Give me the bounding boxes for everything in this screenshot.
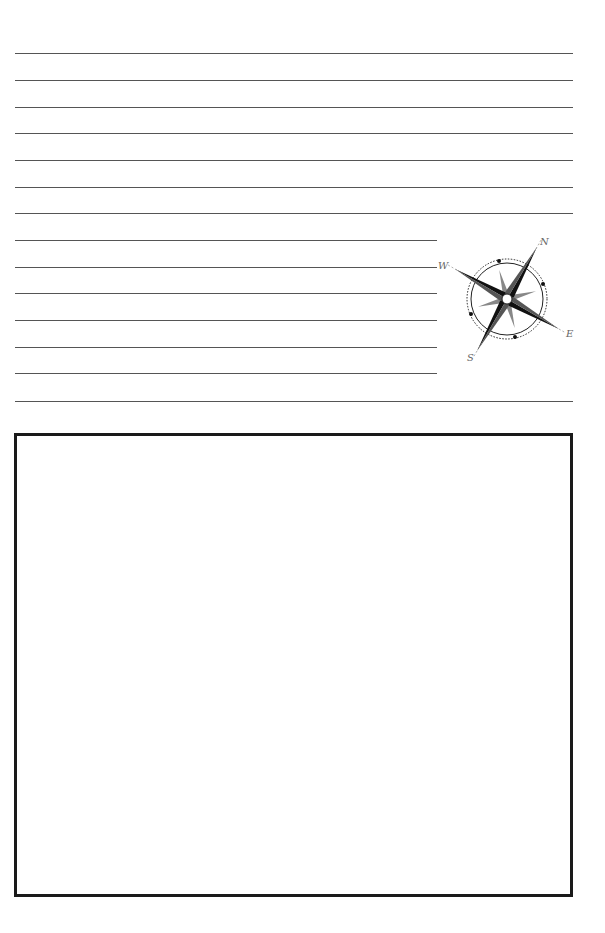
ruled-line — [15, 80, 573, 81]
ruled-line — [15, 133, 573, 134]
ruled-line — [15, 347, 437, 348]
ruled-line — [15, 401, 573, 402]
ruled-line — [15, 213, 573, 214]
compass-label-east: E — [565, 328, 574, 339]
ruled-line — [15, 53, 573, 54]
ruled-line — [15, 267, 437, 268]
compass-label-south: S — [467, 352, 474, 363]
compass-rose-icon: N W E S — [430, 225, 580, 375]
ruled-line — [15, 187, 573, 188]
ruled-line — [15, 240, 437, 241]
ruled-line — [15, 320, 437, 321]
drawing-box — [14, 433, 573, 897]
compass-label-north: N — [539, 236, 550, 247]
ruled-line — [15, 107, 573, 108]
ruled-line — [15, 160, 573, 161]
compass-label-west: W — [438, 260, 449, 271]
ruled-line — [15, 373, 437, 374]
ruled-line — [15, 293, 437, 294]
